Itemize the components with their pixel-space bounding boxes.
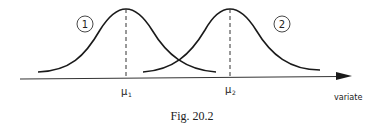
axis-arrowhead-icon — [336, 72, 352, 80]
distribution-curve-2 — [143, 9, 320, 72]
svg-text:2: 2 — [232, 89, 236, 96]
svg-text:1: 1 — [82, 19, 88, 30]
curve-label-2: 2 — [274, 16, 290, 32]
figure-caption: Fig. 20.2 — [170, 109, 213, 123]
svg-text:μ: μ — [225, 84, 232, 95]
variate-axis — [20, 77, 340, 80]
svg-text:1: 1 — [128, 91, 132, 98]
svg-text:μ: μ — [121, 86, 128, 97]
mean-label-2: μ 2 — [225, 84, 236, 96]
axis-label: variate — [334, 92, 362, 102]
normal-distributions-diagram: 1 2 μ 1 μ 2 variate Fig. 20.2 — [0, 0, 373, 124]
distribution-curve-1 — [38, 9, 216, 72]
svg-text:2: 2 — [279, 19, 285, 30]
curve-label-1: 1 — [77, 16, 93, 32]
mean-label-1: μ 1 — [121, 86, 132, 98]
